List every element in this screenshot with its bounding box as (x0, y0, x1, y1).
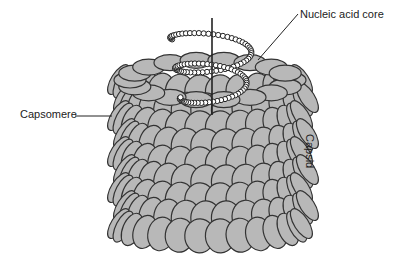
leader-line-core (258, 14, 298, 60)
capsomere (269, 65, 301, 81)
capsid-body (103, 52, 322, 254)
label-capsid: Capsid (304, 134, 316, 168)
virus-diagram: Nucleic acid core Capsomere Capsid (0, 0, 396, 262)
helical-virus-illustration (0, 0, 396, 262)
nucleotide-bead (206, 31, 211, 36)
nucleotide-bead (178, 95, 183, 100)
label-nucleic-acid-core: Nucleic acid core (300, 8, 384, 20)
label-capsomere: Capsomere (20, 108, 77, 120)
